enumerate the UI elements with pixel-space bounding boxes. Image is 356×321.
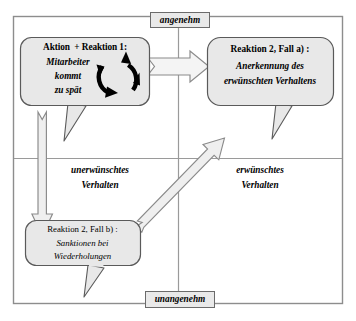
callout-reaktion-2-fall-b-line1: Sanktionen bei xyxy=(25,238,140,248)
callout-reaktion-2-fall-a-heading: Reaktion 2, Fall a) : xyxy=(207,44,333,55)
callout-reaktion-2-fall-b-line2: Wiederholungen xyxy=(25,251,140,261)
quadrant-label-right-line2: Verhalten xyxy=(200,180,320,191)
quadrant-label-left-line1: unerwünschtes xyxy=(40,165,160,176)
diagram-canvas: Aktion + Reaktion 1: Mitarbeiter kommt z… xyxy=(0,0,356,321)
axis-label-bottom: unangenehm xyxy=(145,291,215,308)
callout-reaktion-2-fall-a-line2: erwünschten Verhaltens xyxy=(203,76,337,87)
axis-label-top: angenehm xyxy=(150,12,210,28)
callout-aktion-reaktion-1-line3: zu spät xyxy=(14,85,122,96)
callout-reaktion-2-fall-b-heading: Reaktion 2, Fall b) : xyxy=(25,224,140,234)
callout-aktion-reaktion-1-heading: Aktion + Reaktion 1: xyxy=(20,42,150,53)
quadrant-label-left-line2: Verhalten xyxy=(40,180,160,191)
callout-aktion-reaktion-1-line1: Mitarbeiter xyxy=(14,57,122,68)
callout-reaktion-2-fall-a-line1: Anerkennung des xyxy=(207,61,333,72)
callout-aktion-reaktion-1-line2: kommt xyxy=(14,71,122,82)
quadrant-label-right-line1: erwünschtes xyxy=(200,165,320,176)
